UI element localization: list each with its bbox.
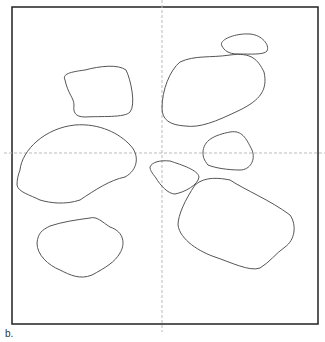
blob-center-small — [150, 161, 199, 194]
blob-top-right-small — [221, 34, 267, 54]
blob-left-large — [17, 125, 136, 203]
blob-upper-left — [64, 66, 132, 117]
blob-lower-left — [37, 218, 123, 277]
diagram-canvas — [0, 0, 325, 342]
figure-label: b. — [5, 328, 13, 339]
blob-lower-right-large — [178, 178, 294, 269]
shape-group — [17, 34, 294, 277]
blob-right-mid-small — [203, 132, 253, 170]
blob-upper-right-large — [162, 54, 265, 126]
frame-border — [12, 7, 318, 324]
